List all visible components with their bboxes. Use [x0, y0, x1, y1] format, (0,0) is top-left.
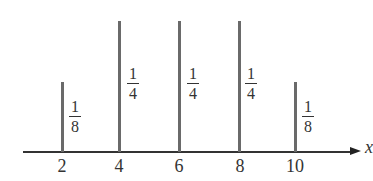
stem-x4	[118, 21, 121, 152]
x-axis-label: x	[365, 138, 373, 156]
x-tick-2: 2	[58, 157, 67, 175]
x-tick-10: 10	[286, 157, 304, 175]
stem-x2	[61, 82, 64, 152]
stem-x8	[238, 21, 241, 152]
x-axis-line	[23, 151, 353, 153]
stem-x10	[294, 82, 297, 152]
prob-label-x8: 14	[245, 66, 257, 101]
prob-label-x10: 18	[302, 99, 314, 134]
x-tick-6: 6	[175, 157, 184, 175]
stem-x6	[178, 21, 181, 152]
prob-label-x2: 18	[69, 99, 81, 134]
prob-label-x6: 14	[187, 66, 199, 101]
x-tick-8: 8	[236, 157, 245, 175]
x-axis-arrow-icon	[350, 147, 361, 155]
x-tick-4: 4	[115, 157, 124, 175]
prob-label-x4: 14	[127, 66, 139, 101]
